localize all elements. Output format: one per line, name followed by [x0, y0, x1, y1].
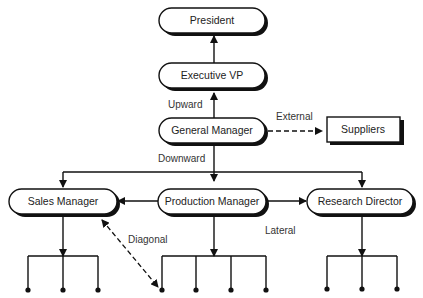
node-general-manager: General Manager: [159, 118, 268, 146]
edge-diagonal: [102, 220, 158, 287]
sales-subordinate-2: [60, 287, 65, 292]
node-research-director-label: Research Director: [318, 195, 403, 207]
node-executive-vp-label: Executive VP: [181, 69, 243, 81]
research-subordinate-1: [324, 286, 329, 291]
node-research-director: Research Director: [307, 189, 416, 217]
org-communication-diagram: President Executive VP General Manager S…: [0, 0, 423, 298]
production-subordinate-2: [193, 287, 198, 292]
node-suppliers-label: Suppliers: [341, 123, 385, 135]
node-sales-manager: Sales Manager: [9, 189, 120, 217]
label-diagonal: Diagonal: [128, 234, 167, 245]
node-general-manager-label: General Manager: [171, 124, 253, 136]
label-downward: Downward: [158, 153, 205, 164]
label-external: External: [276, 111, 313, 122]
node-president: President: [159, 8, 268, 36]
node-production-manager: Production Manager: [158, 189, 269, 217]
production-subordinate-1: [159, 287, 164, 292]
node-sales-manager-label: Sales Manager: [28, 195, 99, 207]
research-subordinate-3: [394, 286, 399, 291]
label-lateral: Lateral: [265, 225, 296, 236]
production-subordinate-3: [228, 287, 233, 292]
sales-subordinate-3: [95, 287, 100, 292]
production-subordinate-4: [263, 287, 268, 292]
node-president-label: President: [190, 14, 234, 26]
research-subordinate-2: [359, 286, 364, 291]
label-upward: Upward: [168, 99, 202, 110]
node-executive-vp: Executive VP: [159, 63, 268, 91]
node-suppliers: Suppliers: [327, 117, 404, 145]
sales-subordinate-1: [25, 287, 30, 292]
node-production-manager-label: Production Manager: [165, 195, 260, 207]
